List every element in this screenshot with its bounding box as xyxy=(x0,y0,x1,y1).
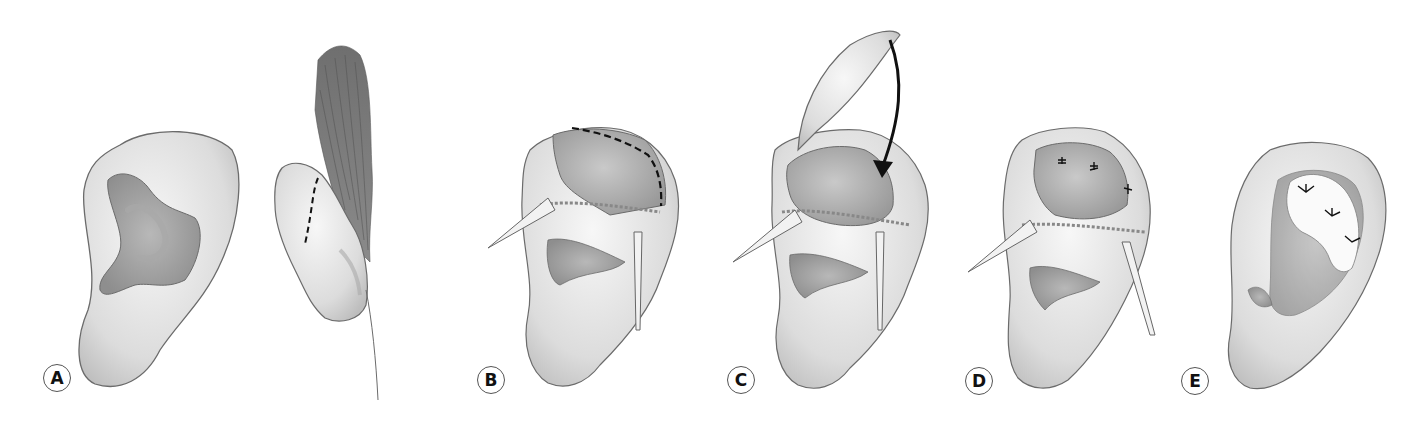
retractor-right-c xyxy=(876,232,884,330)
surgical-figure: A B C D E xyxy=(0,0,1427,423)
panel-label-b: B xyxy=(477,366,505,394)
panel-d-ear xyxy=(968,128,1155,388)
panel-label-e: E xyxy=(1181,367,1209,395)
retractor-right-b xyxy=(634,232,642,330)
panel-b-ear xyxy=(488,128,679,386)
panel-a-side-ear xyxy=(275,46,378,400)
panel-label-c: C xyxy=(727,366,755,394)
panel-e-ear xyxy=(1228,142,1385,388)
panel-label-d: D xyxy=(965,367,993,395)
panel-a-front-ear xyxy=(79,132,239,387)
illustration-canvas xyxy=(0,0,1427,423)
panel-c-ear xyxy=(733,31,928,388)
panel-label-a: A xyxy=(43,364,71,392)
